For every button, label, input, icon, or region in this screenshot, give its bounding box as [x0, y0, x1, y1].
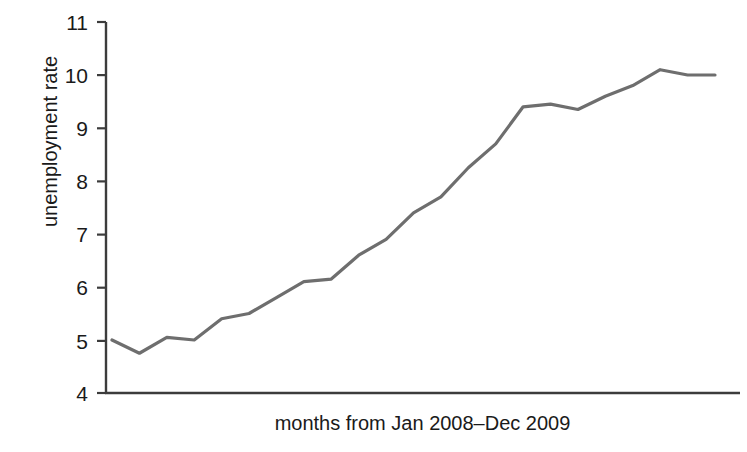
y-tick-label-6: 6 [48, 277, 88, 298]
y-tick-label-5: 5 [48, 331, 88, 352]
x-axis-title: months from Jan 2008–Dec 2009 [105, 412, 740, 435]
y-axis-title: unemployment rate [39, 32, 62, 252]
y-tick-label-11: 11 [48, 12, 88, 33]
y-tick-label-4: 4 [48, 383, 88, 404]
chart-plot-area [0, 0, 747, 452]
unemployment-rate-data-line [112, 70, 715, 354]
y-axis-ticks [97, 22, 106, 393]
unemployment-rate-line-chart: 11 10 9 8 7 6 5 4 unemployment rate mont… [0, 0, 747, 452]
